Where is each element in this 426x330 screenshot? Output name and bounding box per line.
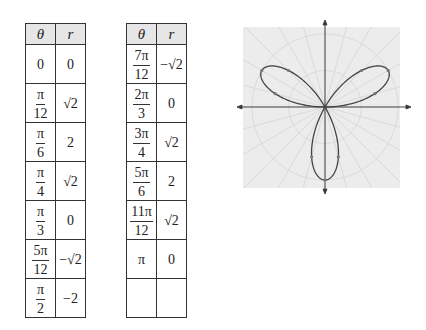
r-cell: √2 — [56, 84, 86, 123]
theta-header: θ — [26, 24, 56, 45]
arrow-up-icon — [323, 20, 327, 25]
theta-value: π — [138, 252, 145, 267]
r-cell: √2 — [56, 162, 86, 201]
theta-fraction: 5π12 — [32, 244, 48, 277]
numerator: 5π — [32, 244, 48, 261]
theta-cell: π2 — [26, 279, 56, 318]
table-row: π0 — [127, 240, 187, 279]
r-cell: 0 — [56, 201, 86, 240]
arrow-down-icon — [323, 189, 327, 194]
theta-fraction: 3π4 — [133, 127, 149, 160]
theta-cell: 11π12 — [127, 201, 157, 240]
table-row: 11π12√2 — [127, 201, 187, 240]
arrow-left-icon — [237, 105, 242, 109]
table-row: 5π62 — [127, 162, 187, 201]
table-row: 7π12−√2 — [127, 45, 187, 84]
r-value: √2 — [63, 174, 78, 189]
theta-cell: π6 — [26, 123, 56, 162]
numerator: 5π — [133, 166, 149, 183]
table-row: 2π30 — [127, 84, 187, 123]
table-row: π62 — [26, 123, 86, 162]
table-row: 5π12−√2 — [26, 240, 86, 279]
data-point — [274, 92, 277, 95]
values-table-1: θ r 00π12√2π62π4√2π305π12−√2π2−2 — [25, 23, 86, 318]
r-header: r — [56, 24, 86, 45]
theta-fraction: 2π3 — [133, 88, 149, 121]
numerator: π — [36, 283, 45, 300]
r-cell: −√2 — [56, 240, 86, 279]
theta-fraction: π3 — [36, 205, 45, 238]
theta-cell: π4 — [26, 162, 56, 201]
data-point — [387, 69, 390, 72]
theta-fraction: π6 — [36, 127, 45, 160]
theta-fraction: 5π6 — [133, 166, 149, 199]
r-cell: 0 — [56, 45, 86, 84]
r-value: 2 — [67, 135, 74, 150]
denominator: 12 — [135, 222, 149, 238]
arrow-right-icon — [406, 105, 411, 109]
numerator: 7π — [133, 49, 149, 66]
theta-fraction: 11π12 — [130, 205, 153, 238]
numerator: 11π — [130, 205, 153, 222]
r-value: 0 — [168, 252, 175, 267]
r-cell: 0 — [157, 84, 187, 123]
r-cell: −√2 — [157, 45, 187, 84]
r-cell: 2 — [157, 162, 187, 201]
r-cell: √2 — [157, 201, 187, 240]
theta-cell: 2π3 — [127, 84, 157, 123]
theta-cell: 3π4 — [127, 123, 157, 162]
denominator: 6 — [37, 144, 44, 160]
denominator: 3 — [37, 222, 44, 238]
r-cell: √2 — [157, 123, 187, 162]
data-point — [373, 92, 376, 95]
r-value: −√2 — [59, 252, 82, 267]
r-cell: 0 — [157, 240, 187, 279]
data-point — [260, 69, 263, 72]
numerator: 2π — [133, 88, 149, 105]
r-value: √2 — [164, 213, 179, 228]
denominator: 12 — [34, 105, 48, 121]
theta-header: θ — [127, 24, 157, 45]
theta-fraction: π4 — [36, 166, 45, 199]
r-value: 2 — [168, 174, 175, 189]
data-point — [337, 155, 340, 158]
table-row: 3π4√2 — [127, 123, 187, 162]
numerator: π — [36, 88, 45, 105]
r-value: 0 — [67, 57, 74, 72]
r-value: √2 — [164, 135, 179, 150]
table-row — [127, 279, 187, 318]
denominator: 3 — [138, 105, 145, 121]
r-header: r — [157, 24, 187, 45]
polar-rose-plot — [230, 15, 420, 200]
values-table-2: θ r 7π12−√22π303π4√25π6211π12√2π0 — [126, 23, 187, 318]
theta-fraction: π12 — [34, 88, 48, 121]
theta-cell: 5π12 — [26, 240, 56, 279]
r-cell — [157, 279, 187, 318]
table-row: π12√2 — [26, 84, 86, 123]
denominator: 4 — [138, 144, 145, 160]
data-point — [310, 155, 313, 158]
r-cell: −2 — [56, 279, 86, 318]
theta-cell: π — [127, 240, 157, 279]
theta-cell: 7π12 — [127, 45, 157, 84]
theta-cell: 5π6 — [127, 162, 157, 201]
denominator: 2 — [37, 300, 44, 316]
r-value: 0 — [67, 213, 74, 228]
data-point — [323, 178, 326, 181]
denominator: 6 — [138, 183, 145, 199]
r-value: √2 — [63, 96, 78, 111]
numerator: π — [36, 205, 45, 222]
theta-cell: 0 — [26, 45, 56, 84]
theta-value: 0 — [37, 57, 44, 72]
theta-fraction: 7π12 — [133, 49, 149, 82]
table-row: π4√2 — [26, 162, 86, 201]
data-point — [287, 69, 290, 72]
r-value: 0 — [168, 96, 175, 111]
r-cell: 2 — [56, 123, 86, 162]
data-point — [360, 69, 363, 72]
theta-cell: π12 — [26, 84, 56, 123]
table-row: 00 — [26, 45, 86, 84]
table-row: π2−2 — [26, 279, 86, 318]
theta-cell — [127, 279, 157, 318]
table-row: π30 — [26, 201, 86, 240]
